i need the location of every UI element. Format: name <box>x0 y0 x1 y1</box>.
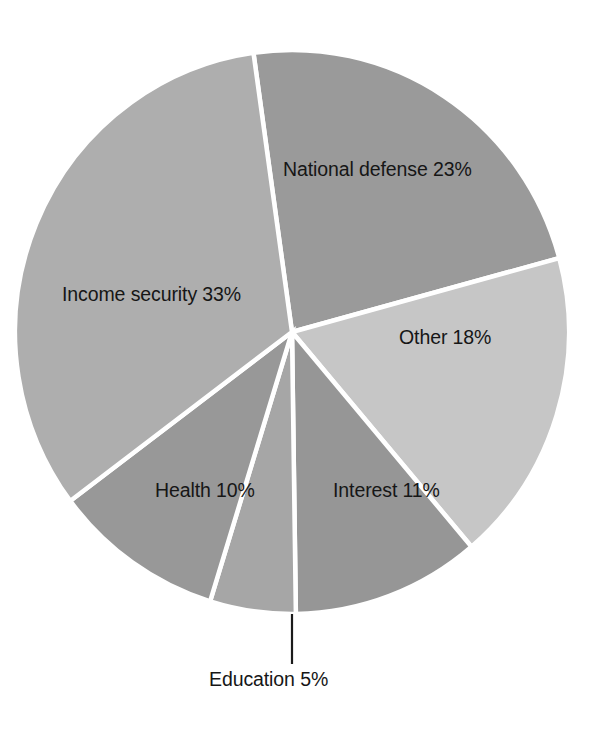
pie-chart-canvas <box>0 0 589 739</box>
slice-label-national-defense: National defense 23% <box>283 160 472 180</box>
slice-label-education: Education 5% <box>209 670 328 690</box>
pie-chart: National defense 23% Other 18% Interest … <box>0 0 589 739</box>
slice-label-interest: Interest 11% <box>333 481 440 501</box>
slice-label-health: Health 10% <box>155 481 255 501</box>
slice-label-income-security: Income security 33% <box>62 285 241 305</box>
slice-label-other: Other 18% <box>399 328 491 348</box>
